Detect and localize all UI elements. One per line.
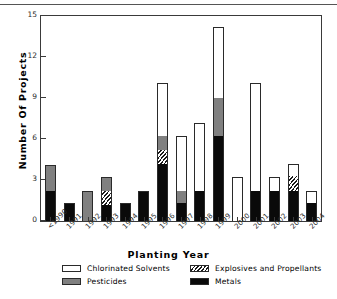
bar-segment-chlorinated-solvents: [157, 83, 168, 136]
legend-item-explosives: Explosives and Propellants: [190, 264, 330, 273]
bar-segment-metals: [157, 164, 168, 221]
bar-segment-chlorinated-solvents: [288, 164, 299, 176]
y-tick-mark: [41, 15, 46, 16]
y-tick-label: 3: [32, 174, 37, 183]
bar-segment-chlorinated-solvents: [250, 83, 261, 191]
y-tick-label: 9: [32, 92, 37, 101]
chart-legend: Chlorinated SolventsExplosives and Prope…: [62, 264, 330, 286]
bar-segment-pesticides: [157, 136, 168, 150]
bar-segment-pesticides: [45, 165, 56, 191]
bar-segment-chlorinated-solvents: [232, 177, 243, 221]
bar-segment-chlorinated-solvents: [194, 123, 205, 191]
plot-area: 03691215: [40, 15, 322, 222]
chart-figure: Number Of Projects 03691215 Planting Yea…: [0, 0, 337, 299]
legend-item-metals: Metals: [190, 277, 330, 286]
bar-2001: [250, 83, 261, 221]
legend-item-solvents: Chlorinated Solvents: [62, 264, 190, 273]
y-tick-label: 0: [32, 215, 37, 224]
bar-1998: [194, 123, 205, 221]
y-tick-label: 15: [27, 10, 37, 19]
bar-segment-chlorinated-solvents: [213, 27, 224, 98]
bar-segment-metals: [213, 136, 224, 221]
legend-label: Metals: [215, 277, 241, 286]
legend-label: Explosives and Propellants: [215, 264, 322, 273]
bar-segment-pesticides: [213, 98, 224, 136]
legend-swatch-metals: [190, 278, 209, 285]
y-tick-mark: [41, 138, 46, 139]
bar-2000: [232, 177, 243, 221]
bar-segment-chlorinated-solvents: [176, 136, 187, 191]
bar-segment-chlorinated-solvents: [269, 177, 280, 191]
bar-segment-explosives-and-propellants: [288, 176, 299, 191]
legend-label: Pesticides: [87, 277, 127, 286]
x-axis-title: Planting Year: [0, 249, 337, 260]
y-tick-label: 12: [27, 51, 37, 60]
legend-label: Chlorinated Solvents: [87, 264, 170, 273]
bar-2002: [269, 177, 280, 221]
y-tick-mark: [41, 97, 46, 98]
bar-segment-explosives-and-propellants: [101, 191, 112, 205]
bar-segment-explosives-and-propellants: [157, 150, 168, 164]
legend-swatch-explosives: [190, 265, 209, 272]
bar-2003: [288, 164, 299, 221]
bar-1999: [213, 27, 224, 221]
plot-inner: 03691215: [41, 16, 321, 221]
bar-lt1990: [45, 165, 56, 221]
y-axis-title: Number Of Projects: [17, 31, 28, 191]
bar-1996: [157, 83, 168, 221]
bar-segment-chlorinated-solvents: [306, 191, 317, 203]
legend-swatch-pesticides: [62, 278, 81, 285]
legend-swatch-solvents: [62, 265, 81, 272]
y-tick-label: 6: [32, 133, 37, 142]
bar-1993: [101, 177, 112, 221]
bar-1997: [176, 136, 187, 221]
legend-item-pesticides: Pesticides: [62, 277, 190, 286]
y-tick-mark: [41, 56, 46, 57]
bar-segment-pesticides: [101, 177, 112, 191]
bar-segment-pesticides: [176, 191, 187, 203]
